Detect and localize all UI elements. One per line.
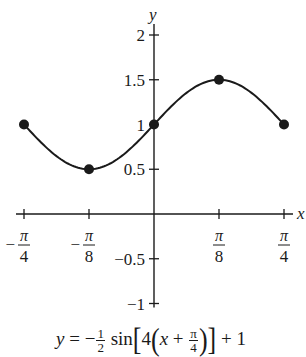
y-tick-label: 1 <box>137 116 146 135</box>
data-point <box>19 120 29 130</box>
eq-lhs: y <box>56 328 64 349</box>
eq-right-paren: ) <box>199 324 208 355</box>
x-tick-numerator: π <box>20 227 29 244</box>
eq-equals: = <box>69 328 80 349</box>
data-point <box>214 75 224 85</box>
x-axis-label: x <box>296 204 305 223</box>
y-tick-label: 0.5 <box>124 160 145 179</box>
data-point <box>279 120 289 130</box>
equation-caption: y = −12 sin[4(x + π4)] + 1 <box>56 327 246 354</box>
eq-func: sin <box>111 328 133 349</box>
eq-left-bracket: [ <box>133 324 142 355</box>
x-tick-numerator: π <box>85 227 94 244</box>
x-tick-label: π4 <box>278 227 290 266</box>
axes <box>16 24 293 308</box>
x-tick-denominator: 8 <box>215 247 224 266</box>
eq-shift-fraction: π4 <box>189 327 198 354</box>
x-tick-denominator: 4 <box>280 247 289 266</box>
x-tick-denominator: 8 <box>85 247 94 266</box>
y-axis-label: y <box>147 5 157 24</box>
x-tick-numerator: π <box>280 227 289 244</box>
eq-minus: − <box>85 328 96 349</box>
data-point <box>84 164 94 174</box>
eq-var: x <box>160 328 168 349</box>
x-tick-label: π4− <box>5 227 30 266</box>
x-tick-numerator: π <box>215 227 224 244</box>
x-tick-label: π8 <box>213 227 225 266</box>
x-tick-minus: − <box>5 235 15 254</box>
y-tick-label: −0.5 <box>114 250 145 269</box>
sine-graph: xy21.510.5−0.5−1π4−π8−π8π4 <box>0 0 306 330</box>
eq-right-bracket: ] <box>208 324 217 355</box>
eq-vertical-shift: + 1 <box>221 328 246 349</box>
y-tick-label: 2 <box>137 26 146 45</box>
eq-left-paren: ( <box>151 324 160 355</box>
tick-labels: xy21.510.5−0.5−1π4−π8−π8π4 <box>5 5 305 314</box>
x-tick-minus: − <box>70 235 80 254</box>
eq-inner-coef: 4 <box>141 328 151 349</box>
eq-plus: + <box>173 328 184 349</box>
y-tick-label: −1 <box>127 295 145 314</box>
x-tick-denominator: 4 <box>20 247 29 266</box>
y-tick-label: 1.5 <box>124 71 145 90</box>
data-point <box>149 120 159 130</box>
eq-coef-fraction: 12 <box>96 327 105 354</box>
x-tick-label: π8− <box>70 227 95 266</box>
